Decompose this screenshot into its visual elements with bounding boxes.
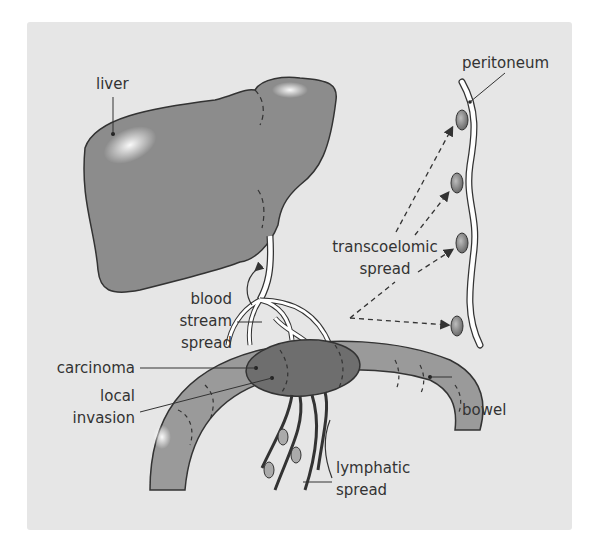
diagram-artwork [0, 0, 590, 551]
label-transcoelomic-line1: transcoelomic [320, 236, 450, 258]
label-liver: liver [96, 73, 129, 95]
label-carcinoma: carcinoma [40, 357, 135, 379]
carcinoma-shape [244, 336, 362, 400]
label-blood-line1: blood [160, 288, 232, 310]
label-lymphatic-line1: lymphatic [336, 457, 410, 479]
peritoneum-shape [451, 73, 505, 345]
label-local-line1: local [40, 385, 135, 407]
label-lymphatic-line2: spread [336, 479, 387, 501]
label-blood-line3: spread [160, 332, 232, 354]
lymphatic-vessels [262, 392, 332, 490]
label-peritoneum: peritoneum [462, 52, 549, 74]
label-bowel: bowel [462, 399, 506, 421]
label-blood-line2: stream [160, 310, 232, 332]
liver-shape [84, 77, 336, 292]
label-transcoelomic-line2: spread [320, 258, 450, 280]
transcoelomic-arrows [350, 128, 452, 325]
label-local-line2: invasion [40, 407, 135, 429]
